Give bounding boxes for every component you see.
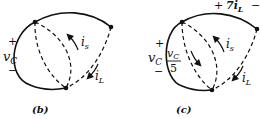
dashed-branch-outer-c [182,22,217,90]
fraction-numerator-c: vC [167,47,179,61]
vc-plus-c: + [155,37,164,50]
node-right-b [109,25,114,30]
dashed-branch-inner-b [35,22,66,88]
vc-minus-c: − [154,65,163,78]
vc5-arrow-icon-c [191,51,199,64]
top-branch-b [35,13,111,27]
top-value-c: 7iL [226,0,244,14]
vc-minus-b: − [8,64,17,77]
is-label-c: is [226,37,234,53]
node-bottom-c [210,88,215,93]
caption-c: (c) [176,104,192,115]
top-plus-c: + [214,0,223,12]
is-arrow-icon-b [69,36,78,50]
is-arrow-icon-c [215,38,224,52]
fraction-denominator-c: 5 [170,62,177,75]
il-label-b: iL [95,69,104,85]
vc-plus-b: + [8,35,17,48]
il-label-c: iL [242,71,251,87]
dashed-branch-inner-c [182,22,212,90]
capacitor-branch-b [14,22,66,90]
top-branch-c [182,14,257,29]
figure-b: + vC − is iL (b) [3,13,113,115]
caption-b: (b) [32,104,49,115]
node-right-c [255,27,260,32]
is-label-b: is [81,35,89,51]
dashed-branch-outer-b [35,22,71,88]
node-bottom-b [64,86,69,91]
circuit-graph-diagram: + vC − is iL (b) + 7iL − + vC [0,0,260,119]
top-minus-c: − [251,0,260,12]
inductor-branch-b [66,27,111,88]
node-top-b [33,20,38,25]
node-top-c [180,20,185,25]
figure-c: + 7iL − + vC − vC 5 is iL (c) [148,0,260,115]
